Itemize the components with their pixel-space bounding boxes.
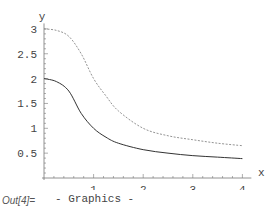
curves xyxy=(44,29,242,159)
y-tick-label: 2.5 xyxy=(17,49,37,61)
y-tick-label: 0.5 xyxy=(17,148,37,160)
x-tick-label: 1 xyxy=(90,184,97,190)
line-chart: 12340.511.522.53xy xyxy=(0,0,270,190)
y-tick-label: 3 xyxy=(30,24,37,36)
dashed-curve xyxy=(44,29,242,146)
solid-curve xyxy=(44,79,242,159)
tick-labels: 12340.511.522.53xy xyxy=(17,11,265,190)
y-tick-label: 2 xyxy=(30,74,37,86)
y-axis-label: y xyxy=(39,11,46,23)
output-graphics-value: - Graphics - xyxy=(55,193,134,205)
x-tick-label: 4 xyxy=(239,184,246,190)
x-axis-label: x xyxy=(258,167,265,179)
x-tick-label: 2 xyxy=(140,184,147,190)
axes xyxy=(42,23,251,180)
y-tick-label: 1.5 xyxy=(17,98,37,110)
y-tick-label: 1 xyxy=(30,123,37,135)
x-tick-label: 3 xyxy=(189,184,196,190)
output-prompt-label: Out[4]= xyxy=(2,195,35,206)
